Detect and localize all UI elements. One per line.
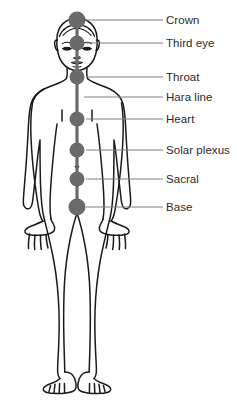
left-eye-detail <box>63 47 72 50</box>
chakra-point-third-eye[interactable] <box>70 36 85 51</box>
body-figure-svg <box>0 0 237 401</box>
label-third-eye: Third eye <box>166 37 214 49</box>
left-toes-detail <box>49 383 65 392</box>
hair-parting-right-detail <box>77 28 91 35</box>
label-heart: Heart <box>166 113 194 125</box>
chakra-body-diagram: CrownThird eyeThroatHara lineHeartSolar … <box>0 0 237 401</box>
left-hand-outline <box>25 219 55 235</box>
label-crown: Crown <box>166 14 199 26</box>
right-eye-detail <box>83 47 92 50</box>
torso-and-legs-outline-right <box>87 68 131 379</box>
chakra-point-throat[interactable] <box>70 70 85 85</box>
chakra-point-crown[interactable] <box>69 12 86 29</box>
label-hara-line: Hara line <box>166 91 212 103</box>
chakra-point-sacral[interactable] <box>70 172 85 187</box>
right-arm-inner-outline <box>97 124 104 219</box>
right-fingers-detail <box>106 234 126 250</box>
label-sacral: Sacral <box>166 173 199 185</box>
leader-lines-group <box>84 20 163 207</box>
label-throat: Throat <box>166 71 200 83</box>
left-inner-leg-outline <box>64 213 77 372</box>
torso-and-legs-outline <box>23 68 67 379</box>
chakra-point-heart[interactable] <box>70 112 85 127</box>
chakra-point-solar-plexus[interactable] <box>70 143 85 158</box>
right-toes-detail <box>89 383 105 392</box>
left-fingers-detail <box>28 234 48 250</box>
chakra-points-group <box>69 12 86 216</box>
label-base: Base <box>166 201 192 213</box>
left-arm-inner-outline <box>50 124 57 219</box>
right-hand-outline <box>99 219 129 235</box>
right-inner-leg-outline <box>77 213 90 372</box>
chakra-point-base[interactable] <box>69 199 86 216</box>
label-solar-plexus: Solar plexus <box>166 144 230 156</box>
hair-parting-left-detail <box>63 28 77 35</box>
